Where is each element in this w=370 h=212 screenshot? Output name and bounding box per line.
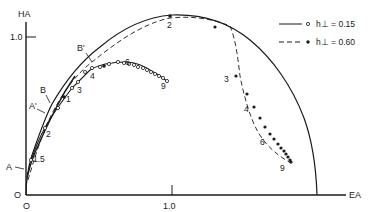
label-s2-9: 9 bbox=[280, 163, 285, 173]
label-s2-6: 6 bbox=[260, 137, 265, 147]
y-axis-label: HA bbox=[18, 9, 31, 19]
label-s2-4: 4 bbox=[244, 104, 249, 114]
open-markers bbox=[29, 60, 168, 161]
y-tick-label-1: 1.0 bbox=[10, 32, 23, 42]
origin-label-x: O bbox=[23, 201, 30, 211]
phase-plot: HA EA 1.0 1.0 O O bbox=[0, 0, 370, 212]
x-tick-label-1: 1.0 bbox=[163, 201, 176, 211]
label-s1-3: 3 bbox=[77, 85, 82, 95]
solid-trajectory bbox=[31, 62, 168, 160]
x-axis-label: EA bbox=[349, 190, 361, 200]
label-s1-4: 4 bbox=[90, 71, 95, 81]
label-s1-1: 1 bbox=[66, 94, 71, 104]
filled-markers bbox=[62, 14, 292, 163]
annotation-B: B bbox=[40, 85, 46, 95]
label-s1-1.5: 1.5 bbox=[33, 154, 45, 164]
legend-open-circle-icon bbox=[306, 22, 309, 25]
solid-envelope-curve bbox=[26, 15, 317, 195]
arrow-B bbox=[46, 95, 50, 103]
label-s1-2: 2 bbox=[46, 129, 51, 139]
legend-filled-circle-icon bbox=[306, 40, 309, 43]
label-s2-3: 3 bbox=[224, 74, 229, 84]
label-s1-9: 9 bbox=[161, 81, 166, 91]
arrow-A bbox=[15, 167, 24, 169]
annotation-B-prime: B' bbox=[77, 43, 85, 53]
origin-label-y: O bbox=[14, 190, 21, 200]
legend-dashed-label: h⊥ = 0.60 bbox=[316, 37, 355, 47]
annotation-A: A bbox=[6, 162, 12, 172]
legend: h⊥ = 0.15 h⊥ = 0.60 bbox=[279, 19, 355, 47]
label-s2-2: 2 bbox=[167, 20, 172, 30]
arrow-A-prime bbox=[37, 109, 45, 113]
legend-solid-label: h⊥ = 0.15 bbox=[316, 19, 355, 29]
annotation-A-prime: A' bbox=[29, 101, 37, 111]
label-s1-6: 6 bbox=[125, 57, 130, 67]
